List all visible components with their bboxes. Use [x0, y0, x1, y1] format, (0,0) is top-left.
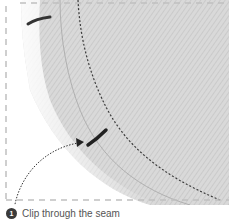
caption-text: Clip through the seam [22, 208, 120, 219]
garment-body [60, 0, 229, 205]
step-number-badge: 1 [6, 208, 17, 219]
sewing-illustration [0, 0, 229, 205]
pointer-arrow [14, 143, 78, 205]
step-caption: 1 Clip through the seam [6, 207, 120, 219]
